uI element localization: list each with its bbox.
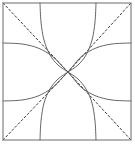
figure-container xyxy=(0,0,135,145)
plot-canvas xyxy=(0,0,135,145)
